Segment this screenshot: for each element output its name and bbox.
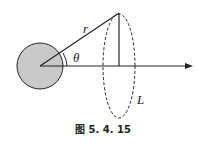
angle-arc — [63, 53, 67, 66]
label-theta: θ — [73, 50, 80, 65]
diagram: r θ L 图 5. 4. 15 — [0, 0, 199, 145]
label-L: L — [136, 92, 144, 107]
radius-line — [40, 13, 119, 66]
arrow-head-icon — [185, 63, 193, 69]
figure-caption: 图 5. 4. 15 — [75, 124, 131, 135]
